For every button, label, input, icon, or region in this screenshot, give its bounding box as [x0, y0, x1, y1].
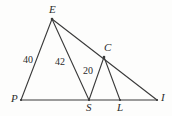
measure-label-es: 42	[55, 57, 65, 67]
measure-label-sc: 20	[83, 66, 93, 76]
segment-s-c	[89, 57, 104, 100]
measure-label-ep: 40	[23, 55, 33, 65]
vertex-label-s: S	[86, 102, 92, 113]
vertex-label-l: L	[117, 102, 123, 113]
vertex-label-i: I	[161, 92, 165, 103]
vertex-point-p	[20, 99, 22, 101]
vertex-label-p: P	[11, 93, 18, 104]
vertex-label-c: C	[104, 42, 111, 53]
vertex-point-c	[103, 56, 106, 59]
vertex-point-i	[156, 99, 158, 101]
geometry-figure: E P S L I C 40 42 20	[0, 0, 172, 116]
vertex-label-e: E	[49, 4, 56, 15]
segment-c-l	[104, 57, 120, 100]
vertex-point-e	[51, 18, 54, 21]
